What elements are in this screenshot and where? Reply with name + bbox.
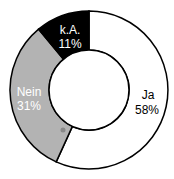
donut-chart: Ja 58% Nein 31% k.A. 11% xyxy=(0,0,174,179)
marker-dot xyxy=(61,128,66,133)
label-nein-value: 31% xyxy=(17,99,41,113)
donut-hole xyxy=(49,50,129,130)
label-ja-name: Ja xyxy=(142,88,155,102)
label-ja-value: 58% xyxy=(135,103,159,117)
label-ka-value: 11% xyxy=(58,37,81,51)
label-ka-name: k.A. xyxy=(60,23,81,37)
label-nein-name: Nein xyxy=(17,85,42,99)
